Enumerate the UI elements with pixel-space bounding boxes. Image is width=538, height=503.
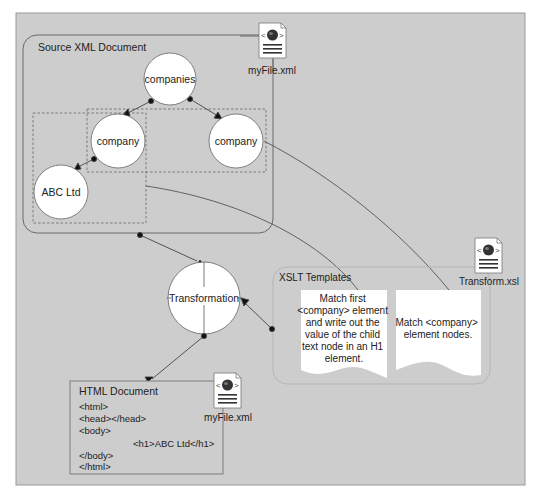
node-abc-ltd: ABC Ltd bbox=[34, 165, 88, 219]
svg-text:company: company bbox=[97, 135, 140, 147]
html-code-line: <h1>ABC Ltd</h1> bbox=[133, 438, 215, 449]
html-document-title: HTML Document bbox=[79, 385, 158, 397]
svg-text:ABC Ltd: ABC Ltd bbox=[41, 186, 80, 198]
html-file-label: myFile.xml bbox=[204, 412, 252, 423]
template-1: Match first <company> element and write … bbox=[297, 290, 390, 378]
template-1-line: text node in an H1 bbox=[302, 341, 384, 352]
xml-file-icon bbox=[259, 23, 286, 58]
html-code-line: <body> bbox=[79, 425, 111, 436]
template-1-line: and write out the bbox=[306, 317, 380, 328]
xsl-file-icon bbox=[475, 238, 502, 273]
xsl-file-label: Transform.xsl bbox=[459, 276, 519, 287]
xslt-diagram: < > Source XML Document companies co bbox=[0, 0, 538, 503]
html-code-line: </html> bbox=[79, 461, 111, 472]
node-company-left: company bbox=[91, 114, 145, 168]
html-file-icon bbox=[214, 373, 241, 408]
svg-text:companies: companies bbox=[145, 73, 196, 85]
template-1-line: <company> element bbox=[297, 305, 388, 316]
template-1-line: value of the child bbox=[305, 329, 380, 340]
node-companies: companies bbox=[144, 53, 196, 105]
xslt-templates-title: XSLT Templates bbox=[279, 272, 351, 283]
svg-text:company: company bbox=[215, 135, 258, 147]
template-2-line: Match <company> bbox=[395, 317, 477, 328]
source-file-label: myFile.xml bbox=[248, 65, 296, 76]
source-xml-title: Source XML Document bbox=[38, 41, 146, 53]
template-1-line: element. bbox=[325, 353, 363, 364]
svg-text:Transformation: Transformation bbox=[169, 292, 239, 304]
template-2: Match <company> element nodes. bbox=[395, 290, 481, 376]
html-code-line: </body> bbox=[79, 450, 114, 461]
html-code-line: <head></head> bbox=[79, 413, 147, 424]
template-2-line: element nodes. bbox=[404, 329, 472, 340]
template-1-line: Match first bbox=[320, 293, 366, 304]
node-company-right: company bbox=[209, 114, 263, 168]
html-code-line: <html> bbox=[79, 401, 108, 412]
svg-text:Match <company> element: Match <company> element nodes. bbox=[395, 317, 480, 340]
